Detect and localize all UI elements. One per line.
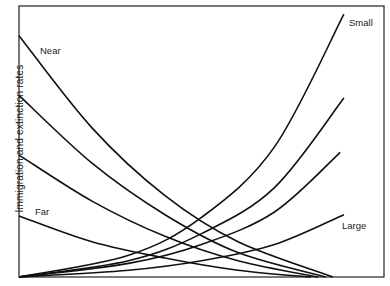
y-axis-label: Immigration and extinction rates [14, 64, 25, 214]
curves-group [19, 14, 344, 277]
label-far: Far [35, 206, 49, 217]
label-near: Near [40, 45, 61, 56]
label-small: Small [349, 17, 373, 28]
immigration-curve-2 [19, 95, 326, 277]
extinction-curve-2 [19, 98, 344, 277]
chart-canvas [0, 0, 390, 286]
label-large: Large [342, 220, 366, 231]
extinction-curve-3 [19, 152, 340, 277]
extinction-curve-1 [19, 14, 344, 277]
